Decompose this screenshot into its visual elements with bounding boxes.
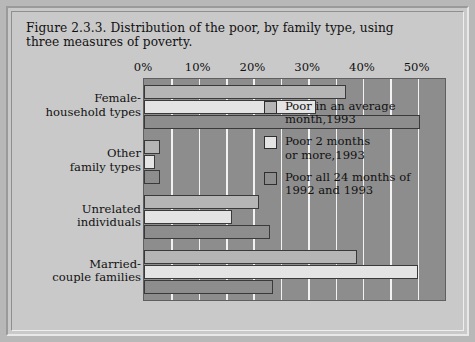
bar [144,195,259,209]
y-category-label: Other family types [21,147,141,174]
x-tick-label: 20% [240,60,266,74]
bar [144,225,270,239]
legend-swatch-icon [264,172,277,185]
y-category-label: Unrelated individuals [21,203,141,230]
y-axis-category-labels: Female- household typesOther family type… [17,78,141,299]
x-tick-label: 0% [134,60,152,74]
bar [144,140,160,154]
legend-swatch-icon [264,101,277,114]
chart-legend: Poor in an average month,1993Poor 2 mont… [264,100,434,206]
bar [144,280,273,294]
bar [144,85,346,99]
y-category-label: Married- couple families [21,258,141,285]
figure-inner-frame: Figure 2.3.3. Distribution of the poor, … [11,11,464,331]
bar [144,155,155,169]
bar [144,170,160,184]
legend-item: Poor in an average month,1993 [264,100,434,126]
bar [144,265,418,279]
bar [144,210,232,224]
bar [144,250,357,264]
legend-label: Poor all 24 months of 1992 and 1993 [285,170,410,197]
legend-swatch-icon [264,136,277,149]
x-tick-label: 50% [404,60,430,74]
x-tick-label: 40% [349,60,375,74]
x-tick-label: 10% [185,60,211,74]
legend-label: Poor in an average month,1993 [285,99,396,126]
legend-label: Poor 2 months or more,1993 [285,134,370,161]
y-category-label: Female- household types [21,92,141,119]
x-tick-label: 30% [294,60,320,74]
legend-item: Poor all 24 months of 1992 and 1993 [264,171,434,197]
plot-wrapper: 0%10%20%30%40%50% Female- household type… [12,12,463,330]
figure-outer-frame: Figure 2.3.3. Distribution of the poor, … [6,6,469,336]
legend-item: Poor 2 months or more,1993 [264,135,434,161]
